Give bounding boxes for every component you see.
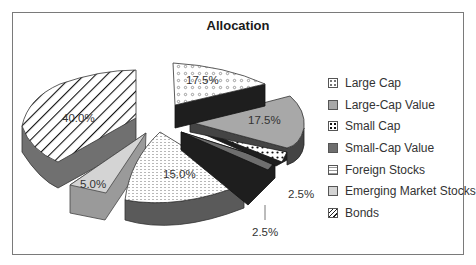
swatch-light-gray-icon: [328, 186, 338, 196]
swatch-gray-icon: [328, 100, 338, 110]
legend-item-large-cap: Large Cap: [328, 72, 476, 94]
label-small-cap-value: 2.5%: [252, 226, 278, 238]
swatch-dashes-icon: [328, 165, 338, 175]
label-small-cap: 2.5%: [288, 188, 314, 200]
label-large-cap-value: 17.5%: [248, 114, 281, 126]
legend-label: Foreign Stocks: [345, 163, 425, 177]
legend-item-emerging: Emerging Market Stocks: [328, 180, 476, 202]
swatch-stripes-icon: [328, 208, 338, 218]
swatch-dark-gray-icon: [328, 143, 338, 153]
label-bonds: 40.0%: [62, 112, 95, 124]
legend-item-foreign: Foreign Stocks: [328, 159, 476, 181]
label-emerging: 5.0%: [80, 178, 106, 190]
swatch-dots-icon: [328, 121, 338, 131]
legend-item-large-cap-value: Large-Cap Value: [328, 94, 476, 116]
legend-label: Large-Cap Value: [345, 98, 435, 112]
swatch-circles-icon: [328, 78, 338, 88]
legend-label: Large Cap: [345, 76, 401, 90]
legend-item-bonds: Bonds: [328, 202, 476, 224]
legend-label: Emerging Market Stocks: [345, 184, 476, 198]
legend-label: Small Cap: [345, 119, 400, 133]
label-foreign: 15.0%: [163, 168, 196, 180]
legend-label: Bonds: [345, 206, 379, 220]
legend-item-small-cap-value: Small-Cap Value: [328, 137, 476, 159]
legend-label: Small-Cap Value: [345, 141, 434, 155]
label-large-cap: 17.5%: [186, 74, 219, 86]
legend: Large Cap Large-Cap Value Small Cap Smal…: [328, 72, 476, 224]
legend-item-small-cap: Small Cap: [328, 115, 476, 137]
